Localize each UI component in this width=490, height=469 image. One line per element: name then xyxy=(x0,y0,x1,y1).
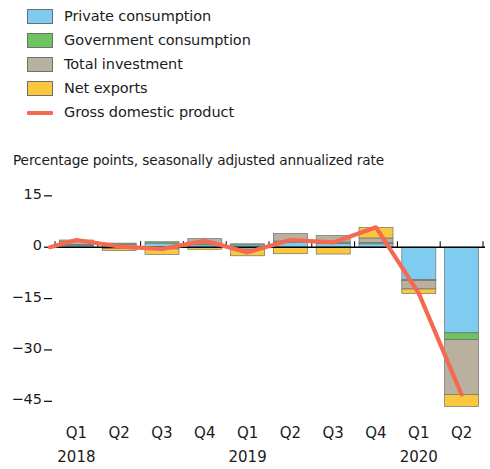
chart-subtitle: Percentage points, seasonally adjusted a… xyxy=(13,152,384,168)
legend-item-label: Gross domestic product xyxy=(64,105,234,120)
bar-segment xyxy=(445,247,479,333)
y-axis-tick-label: −15 xyxy=(0,289,42,305)
y-axis-tick-label: −45 xyxy=(0,391,42,407)
legend-item-label: Private consumption xyxy=(64,9,211,24)
chart-legend: Private consumptionGovernment consumptio… xyxy=(27,4,467,124)
y-axis-tick-label: −30 xyxy=(0,340,42,356)
legend-color-swatch xyxy=(27,57,53,72)
legend-item-label: Total investment xyxy=(64,57,183,72)
x-axis-year-label: 2019 xyxy=(218,448,278,466)
legend-color-swatch xyxy=(27,9,53,24)
x-axis-quarter-label: Q2 xyxy=(270,424,310,442)
legend-item: Government consumption xyxy=(27,28,467,52)
bar-segment xyxy=(273,247,307,254)
x-axis-quarter-label: Q2 xyxy=(99,424,139,442)
bars-layer xyxy=(59,227,478,406)
legend-item: Gross domestic product xyxy=(27,100,467,124)
x-axis-quarter-label: Q1 xyxy=(228,424,268,442)
legend-line-swatch xyxy=(27,105,53,120)
bar-segment xyxy=(231,244,265,245)
x-axis-quarter-label: Q4 xyxy=(185,424,225,442)
x-axis-quarter-label: Q2 xyxy=(442,424,482,442)
gdp-contributions-chart: Private consumptionGovernment consumptio… xyxy=(0,0,490,469)
legend-item: Net exports xyxy=(27,76,467,100)
legend-item-label: Net exports xyxy=(64,81,148,96)
plot-svg xyxy=(0,180,490,425)
x-axis-year-label: 2020 xyxy=(389,448,449,466)
bar-segment xyxy=(145,242,179,243)
x-axis-quarter-label: Q4 xyxy=(356,424,396,442)
bar-segment xyxy=(316,247,350,254)
x-axis-labels: Q1Q2Q3Q4Q1Q2Q3Q4Q1Q2201820192020 xyxy=(0,424,490,469)
bar-segment xyxy=(445,333,479,340)
legend-item-label: Government consumption xyxy=(64,33,251,48)
y-axis-tick-label: 0 xyxy=(0,237,42,253)
bar-segment xyxy=(359,238,393,242)
legend-item: Private consumption xyxy=(27,4,467,28)
legend-color-swatch xyxy=(27,33,53,48)
x-axis-year-label: 2018 xyxy=(46,448,106,466)
legend-color-swatch xyxy=(27,81,53,96)
x-axis-quarter-label: Q1 xyxy=(399,424,439,442)
x-axis-quarter-label: Q3 xyxy=(142,424,182,442)
bar-segment xyxy=(402,280,436,289)
y-axis-tick-label: 15 xyxy=(0,186,42,202)
plot-area: 150−15−30−45 xyxy=(0,180,490,425)
x-axis-quarter-label: Q3 xyxy=(313,424,353,442)
legend-item: Total investment xyxy=(27,52,467,76)
x-axis-quarter-label: Q1 xyxy=(56,424,96,442)
